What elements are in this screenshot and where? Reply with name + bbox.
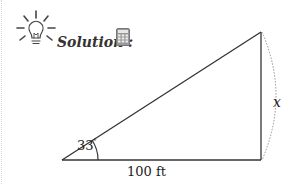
height-variable-label: x bbox=[273, 94, 281, 110]
angle-label: 33° bbox=[77, 138, 97, 153]
angle-value: 33 bbox=[77, 138, 94, 153]
triangle-diagram bbox=[0, 0, 291, 184]
base-length-label: 100 ft bbox=[127, 164, 166, 179]
degree-symbol: ° bbox=[94, 137, 97, 144]
